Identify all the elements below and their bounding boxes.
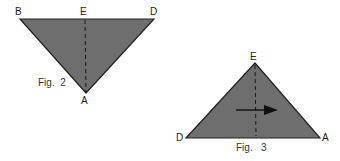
fig2-label-d: D: [150, 6, 157, 17]
fig3-label-e: E: [250, 51, 257, 62]
diagram-canvas: B E D A Fig. 2 E D A Fig. 3: [0, 0, 340, 161]
figure-3: E D A Fig. 3: [176, 51, 329, 153]
figure-2: B E D A Fig. 2: [15, 6, 157, 106]
fig3-triangle: [186, 63, 320, 138]
fig2-label-b: B: [15, 6, 22, 17]
fig2-caption: Fig. 2: [38, 77, 66, 88]
fig3-label-a: A: [322, 132, 329, 143]
fig2-label-a: A: [81, 95, 88, 106]
fig3-label-d: D: [176, 132, 183, 143]
fig3-caption: Fig. 3: [236, 142, 267, 153]
fig2-label-e: E: [80, 6, 87, 17]
